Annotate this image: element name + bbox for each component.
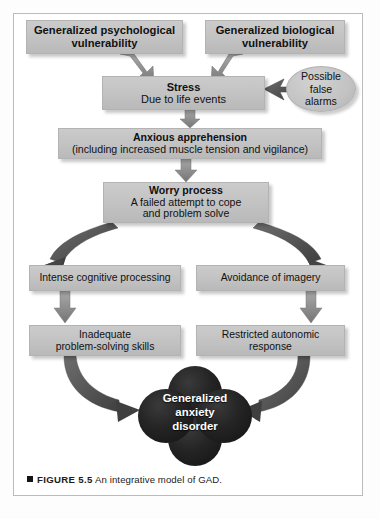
node-stress[interactable]: Stress Due to life events [102,76,265,110]
node-worry-process[interactable]: Worry process A failed attempt to cope a… [103,182,269,223]
figure-caption: FIGURE 5.5 An integrative model of GAD. [27,474,347,485]
node-label-line2: vulnerability [242,37,308,49]
node-label-line1: Generalized biological [216,24,335,36]
node-label-line3: alarms [305,95,337,107]
node-label-line1: Anxious apprehension [133,131,247,143]
node-label-line2: vulnerability [72,37,138,49]
node-intense-cognitive-processing[interactable]: Intense cognitive processing [29,265,181,291]
node-generalized-anxiety-disorder[interactable]: Generalized anxiety disorder [138,366,252,466]
node-label-line2: false [310,83,332,95]
node-generalized-psychological-vulnerability[interactable]: Generalized psychological vulnerability [26,20,183,54]
node-label-line3: and problem solve [143,207,230,219]
node-anxious-apprehension[interactable]: Anxious apprehension (including increase… [58,128,322,159]
node-label-line1: Possible [301,70,341,82]
node-label-line1: Stress [167,81,201,93]
node-label-line2: (including increased muscle tension and … [72,143,308,155]
node-label-line2: Due to life events [141,93,226,105]
node-label-line2: response [249,341,292,352]
figure-number: FIGURE 5.5 [37,474,93,485]
clover-label: Generalized anxiety disorder [138,392,252,434]
node-label-line1: Worry process [149,184,223,196]
node-label-line2: A failed attempt to cope [131,196,242,208]
node-label-line1: Generalized [163,392,228,404]
node-label-line2: problem-solving skills [56,341,155,352]
node-label-line1: Generalized psychological [34,24,175,36]
caption-bullet-icon [27,476,33,482]
node-generalized-biological-vulnerability[interactable]: Generalized biological vulnerability [205,20,345,54]
node-inadequate-problem-solving-skills[interactable]: Inadequate problem-solving skills [29,325,181,356]
node-label-line1: Avoidance of imagery [221,272,321,283]
node-label-line1: Restricted autonomic [222,329,320,340]
node-label-line1: Inadequate [79,329,131,340]
node-label-line3: disorder [172,420,218,432]
node-restricted-autonomic-response[interactable]: Restricted autonomic response [196,325,345,356]
figure-container: Generalized psychological vulnerability … [0,0,380,519]
node-label-line2: anxiety [175,406,214,418]
node-avoidance-of-imagery[interactable]: Avoidance of imagery [196,265,345,291]
node-label-line1: Intense cognitive processing [39,272,170,283]
node-possible-false-alarms[interactable]: Possible false alarms [286,66,356,112]
figure-caption-text: An integrative model of GAD. [95,474,222,485]
